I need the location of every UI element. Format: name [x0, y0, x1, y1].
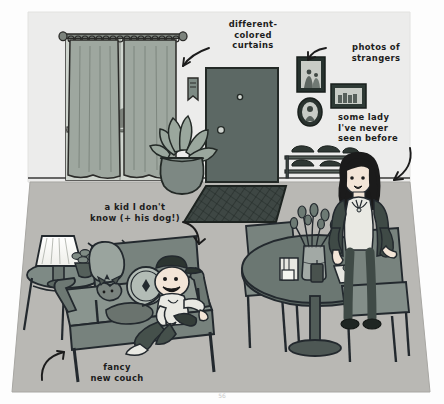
plant-pot	[160, 158, 203, 194]
annotation-fancy-new-couch: fancy new couch	[80, 362, 154, 383]
wall-sconce	[188, 78, 198, 100]
front-door[interactable]	[206, 68, 278, 182]
table-pedestal	[310, 296, 320, 346]
annotation-a-kid-i-dont-know: a kid I don't know (+ his dog!)	[76, 202, 194, 223]
curtain-left	[68, 40, 120, 178]
door-peephole	[237, 94, 242, 99]
candle	[311, 260, 323, 282]
woman-shoe-left	[341, 319, 359, 329]
illustration-canvas: different- colored curtains photos of st…	[0, 0, 444, 404]
frame-oval	[298, 98, 322, 126]
door-knob[interactable]	[218, 127, 225, 134]
dog-body	[106, 303, 153, 324]
annotation-different-colored-curtains: different- colored curtains	[210, 19, 296, 51]
napkin-holder	[280, 258, 298, 280]
cap-brim	[185, 268, 201, 274]
woman-shirt	[344, 197, 373, 250]
kid-head	[155, 267, 189, 297]
frame-portrait	[297, 57, 325, 92]
woman-eye-right	[361, 176, 365, 180]
frame-landscape	[331, 84, 366, 108]
page-number: 56	[0, 392, 444, 399]
kid-eye-left	[163, 277, 167, 281]
annotation-photos-of-strangers: photos of strangers	[332, 42, 420, 63]
kid-eye-right	[174, 277, 178, 281]
woman-eye-left	[350, 176, 354, 180]
woman-shoe-right	[363, 319, 381, 329]
table-base	[289, 340, 341, 356]
annotation-some-lady: some lady I've never seen before	[338, 112, 430, 144]
